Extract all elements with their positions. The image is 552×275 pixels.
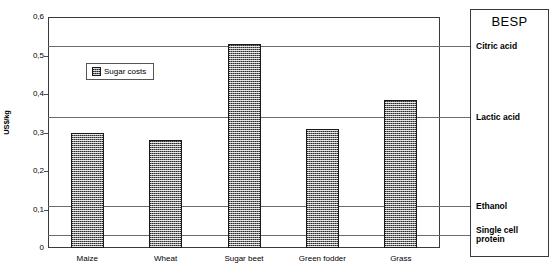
y-axis-title: US$/kg — [2, 101, 11, 145]
bar-green-fodder — [306, 129, 339, 248]
x-tick-label-grass: Grass — [356, 254, 446, 263]
besp-label-single-cell-protein: Single cell protein — [476, 226, 548, 245]
besp-panel: BESP Citric acidLactic acidEthanolSingle… — [470, 9, 549, 257]
besp-label-citric-acid: Citric acid — [476, 42, 548, 52]
x-tick-label-sugar-beet: Sugar beet — [199, 254, 289, 263]
besp-label-ethanol: Ethanol — [476, 202, 548, 212]
y-tick-label: 0,5 — [22, 52, 44, 60]
y-tick-label: 0,1 — [22, 206, 44, 214]
y-tick-label: 0 — [22, 244, 44, 252]
besp-panel-title: BESP — [471, 15, 548, 29]
y-tick-label: 0,4 — [22, 90, 44, 98]
bar-sugar-beet — [228, 44, 261, 248]
x-tick-label-maize: Maize — [42, 254, 132, 263]
legend-label-sugar-costs: Sugar costs — [104, 67, 146, 76]
y-tick-label: 0,3 — [22, 129, 44, 137]
bar-maize — [71, 133, 104, 249]
y-tick-label: 0,2 — [22, 167, 44, 175]
y-tick-label: 0,6 — [22, 13, 44, 21]
bar-wheat — [149, 140, 182, 248]
x-tick-label-wheat: Wheat — [121, 254, 211, 263]
bar-chart-figure: US$/kg 00,10,20,30,40,50,6 MaizeWheatSug… — [0, 0, 552, 275]
bar-grass — [384, 100, 417, 248]
besp-label-lactic-acid: Lactic acid — [476, 113, 548, 123]
x-tick-label-green-fodder: Green fodder — [277, 254, 367, 263]
legend-swatch-icon — [92, 67, 101, 76]
chart-legend: Sugar costs — [86, 63, 154, 80]
